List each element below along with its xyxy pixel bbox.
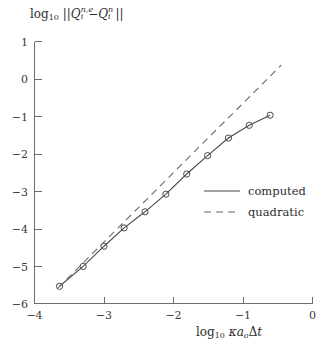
legend-label-computed: computed [248, 184, 306, 198]
y-tick-label-5: −4 [12, 223, 28, 236]
x-axis-title-t: t [257, 325, 262, 339]
y-axis-title-q2-base: Q [98, 7, 108, 21]
y-axis-title-log: log [30, 7, 49, 21]
y-axis-ticks [35, 42, 42, 267]
x-tick-label-1: −3 [96, 309, 112, 322]
chart-legend: computed quadratic [204, 184, 306, 219]
y-axis-title: log10 ||Qin,e−Qin|| [30, 8, 124, 22]
y-axis-title-norm-open: || [63, 7, 71, 21]
x-axis-tick-labels: −4 −3 −2 −1 0 [26, 309, 316, 322]
series-line-quadratic [58, 65, 281, 288]
series-line-computed [60, 115, 271, 286]
x-axis-title-a: a [237, 325, 244, 339]
y-tick-label-2: −1 [12, 111, 28, 124]
y-axis-title-norm-close: || [115, 7, 123, 21]
axis-frame [35, 42, 313, 304]
x-axis-ticks [35, 297, 313, 304]
y-axis-title-q2: Qin [98, 8, 108, 20]
x-tick-label-4: 0 [309, 309, 316, 322]
y-axis-tick-labels: 1 0 −1 −2 −3 −4 −5 −6 [12, 36, 28, 312]
y-axis-title-q1-sup: n,e [81, 6, 93, 14]
y-tick-label-3: −2 [12, 148, 28, 161]
y-tick-label-6: −5 [12, 261, 28, 274]
legend-label-quadratic: quadratic [248, 205, 304, 219]
x-tick-label-2: −2 [165, 309, 181, 322]
y-axis-title-log-sub: 10 [49, 13, 59, 22]
x-axis-title-log: log [196, 325, 215, 339]
y-tick-label-4: −3 [12, 186, 28, 199]
y-axis-title-q2-sub: i [108, 13, 111, 21]
x-axis-title-kappa: κ [229, 325, 237, 339]
x-axis-title-delta: Δ [249, 325, 258, 339]
y-axis-title-q1: Qin,e [71, 8, 81, 20]
x-axis-title: log10 κaoΔt [196, 326, 262, 340]
y-tick-label-0: 1 [21, 36, 28, 49]
y-axis-title-q1-base: Q [71, 7, 81, 21]
x-axis-title-log-sub: 10 [215, 331, 225, 340]
series-markers-computed [56, 112, 273, 289]
figure-container: 1 0 −1 −2 −3 −4 −5 −6 −4 −3 −2 −1 0 comp… [0, 0, 324, 350]
chart-plot-area: 1 0 −1 −2 −3 −4 −5 −6 −4 −3 −2 −1 0 comp… [0, 0, 324, 350]
y-axis-title-q1-sub: i [81, 13, 84, 21]
data-series-layer [56, 65, 281, 289]
y-tick-label-1: 0 [21, 73, 28, 86]
x-tick-label-0: −4 [26, 309, 42, 322]
x-tick-label-3: −1 [235, 309, 251, 322]
y-axis-title-q2-sup: n [108, 6, 113, 14]
